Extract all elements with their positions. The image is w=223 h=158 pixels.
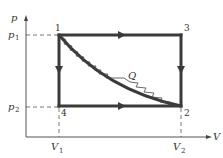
- svg-text:2: 2: [181, 147, 185, 155]
- svg-text:1: 1: [15, 34, 19, 42]
- x-axis-label: V: [213, 131, 222, 142]
- svg-text:p: p: [8, 101, 15, 112]
- svg-text:1: 1: [59, 147, 63, 155]
- guide-lines: [26, 35, 181, 137]
- x-axis-arrow-icon: [206, 135, 212, 139]
- y-axis-arrow-icon: [24, 15, 28, 21]
- svg-text:p: p: [8, 29, 15, 40]
- v2-tick-label: V 2: [173, 141, 185, 155]
- arrow-down-icon: [177, 66, 185, 74]
- point-1-label: 1: [55, 23, 61, 33]
- curve-1-2: [59, 35, 181, 106]
- point-2-label: 2: [184, 108, 190, 118]
- arrow-right-icon: [118, 102, 126, 110]
- cycle-paths: [59, 35, 181, 106]
- q-label: Q: [128, 70, 136, 81]
- point-4-label: 4: [61, 108, 67, 118]
- v1-tick-label: V 1: [51, 141, 63, 155]
- arrow-down-icon: [55, 66, 63, 74]
- zigzag-1-2: [59, 35, 181, 106]
- direction-arrows: [55, 31, 185, 110]
- p1-tick-label: p 1: [8, 29, 19, 42]
- p2-tick-label: p 2: [8, 101, 19, 114]
- pv-diagram: Q p V p 1 p 2 V 1 V 2 1 3 2 4: [0, 0, 223, 158]
- arrow-right-icon: [118, 31, 126, 39]
- y-axis-label: p: [11, 12, 18, 23]
- point-3-label: 3: [184, 23, 190, 33]
- svg-text:2: 2: [15, 106, 19, 114]
